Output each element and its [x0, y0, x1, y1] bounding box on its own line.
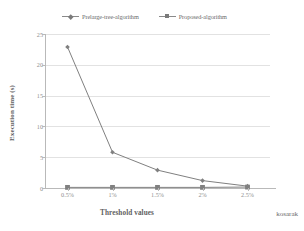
x-axis-line [45, 188, 276, 189]
chart-figure: Prelarge-tree-algorithm Proposed-algorit… [0, 0, 304, 231]
y-axis-tick [42, 34, 45, 35]
data-point-diamond-icon [65, 45, 70, 50]
y-axis-tick-label: 20 [27, 61, 43, 68]
y-axis-tick-label: 0 [27, 185, 43, 192]
legend-label: Prelarge-tree-algorithm [82, 13, 139, 20]
series-line [68, 47, 248, 186]
y-axis-tick [42, 157, 45, 158]
y-axis-title: Execution time (s) [6, 60, 18, 165]
y-axis-tick-label: 5 [27, 154, 43, 161]
y-axis-tick [42, 96, 45, 97]
y-axis-tick-labels: 0510152025 [27, 34, 43, 188]
y-axis-title-text: Execution time (s) [8, 85, 16, 141]
dataset-name-label: kosarak [276, 210, 298, 218]
y-axis-tick [42, 65, 45, 66]
chart-legend: Prelarge-tree-algorithm Proposed-algorit… [62, 9, 252, 23]
plot-area [45, 34, 270, 188]
y-axis-tick-label: 25 [27, 31, 43, 38]
legend-item-prelarge-tree-algorithm: Prelarge-tree-algorithm [62, 13, 139, 20]
x-axis-tick-label: 2% [198, 191, 206, 199]
y-axis-tick-label: 10 [27, 123, 43, 130]
data-point-diamond-icon [200, 178, 205, 183]
legend-marker-diamond-icon [62, 13, 79, 20]
y-axis-tick-label: 15 [27, 92, 43, 99]
x-axis-tick-label: 1.5% [151, 191, 164, 199]
x-axis-tick-label: 2.5% [241, 191, 254, 199]
x-axis-tick-labels: 0.5%1%1.5%2%2.5% [45, 191, 276, 201]
legend-label: Proposed-algorithm [179, 13, 227, 20]
y-axis-tick [42, 126, 45, 127]
x-axis-tick-label: 0.5% [61, 191, 74, 199]
legend-marker-square-icon [159, 13, 176, 20]
x-axis-tick-label: 1% [108, 191, 116, 199]
y-axis-tick [42, 188, 45, 189]
data-point-diamond-icon [155, 168, 160, 173]
series-layer [45, 34, 270, 188]
data-point-diamond-icon [110, 150, 115, 155]
legend-item-proposed-algorithm: Proposed-algorithm [159, 13, 227, 20]
x-axis-title: Threshold values [100, 209, 154, 217]
